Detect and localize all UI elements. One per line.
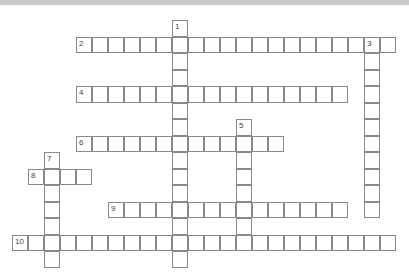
crossword-cell[interactable] — [220, 136, 236, 153]
crossword-cell[interactable] — [124, 235, 140, 252]
crossword-cell[interactable] — [252, 86, 268, 103]
crossword-cell[interactable] — [236, 218, 252, 235]
crossword-cell[interactable] — [172, 202, 188, 219]
crossword-cell[interactable] — [300, 202, 316, 219]
crossword-cell[interactable] — [172, 251, 188, 268]
crossword-cell[interactable] — [140, 136, 156, 153]
crossword-cell[interactable] — [364, 185, 380, 202]
crossword-cell[interactable] — [236, 185, 252, 202]
crossword-cell[interactable] — [124, 86, 140, 103]
crossword-cell[interactable] — [172, 37, 188, 54]
crossword-cell[interactable] — [140, 86, 156, 103]
crossword-cell[interactable] — [364, 152, 380, 169]
crossword-cell[interactable] — [204, 202, 220, 219]
crossword-cell[interactable] — [124, 37, 140, 54]
crossword-cell[interactable] — [332, 37, 348, 54]
crossword-cell[interactable] — [60, 169, 76, 186]
crossword-cell[interactable] — [204, 235, 220, 252]
crossword-cell[interactable] — [364, 119, 380, 136]
crossword-cell[interactable] — [316, 235, 332, 252]
crossword-cell[interactable] — [172, 152, 188, 169]
crossword-cell[interactable] — [236, 169, 252, 186]
crossword-cell[interactable] — [380, 235, 396, 252]
crossword-cell[interactable] — [204, 86, 220, 103]
crossword-cell[interactable] — [172, 218, 188, 235]
crossword-cell[interactable] — [172, 53, 188, 70]
crossword-cell[interactable] — [332, 86, 348, 103]
crossword-cell[interactable] — [268, 235, 284, 252]
crossword-cell[interactable] — [92, 136, 108, 153]
crossword-cell[interactable] — [268, 37, 284, 54]
crossword-cell[interactable] — [140, 37, 156, 54]
crossword-cell[interactable] — [316, 86, 332, 103]
crossword-cell[interactable] — [364, 86, 380, 103]
crossword-cell[interactable] — [332, 235, 348, 252]
crossword-cell[interactable] — [204, 37, 220, 54]
crossword-cell[interactable]: 7 — [44, 152, 60, 169]
crossword-cell[interactable] — [380, 37, 396, 54]
crossword-cell[interactable] — [172, 136, 188, 153]
crossword-cell[interactable] — [316, 202, 332, 219]
crossword-cell[interactable] — [188, 235, 204, 252]
crossword-cell[interactable] — [108, 86, 124, 103]
crossword-cell[interactable]: 3 — [364, 37, 380, 54]
crossword-cell[interactable] — [300, 86, 316, 103]
crossword-cell[interactable] — [364, 70, 380, 87]
crossword-cell[interactable] — [252, 235, 268, 252]
crossword-cell[interactable] — [204, 136, 220, 153]
crossword-cell[interactable] — [92, 235, 108, 252]
crossword-cell[interactable] — [156, 136, 172, 153]
crossword-cell[interactable] — [60, 235, 76, 252]
crossword-cell[interactable] — [44, 185, 60, 202]
crossword-cell[interactable] — [268, 86, 284, 103]
crossword-cell[interactable] — [76, 169, 92, 186]
crossword-cell[interactable] — [76, 235, 92, 252]
crossword-cell[interactable] — [348, 37, 364, 54]
crossword-cell[interactable] — [236, 37, 252, 54]
crossword-cell[interactable] — [156, 37, 172, 54]
crossword-cell[interactable] — [156, 235, 172, 252]
crossword-cell[interactable]: 2 — [76, 37, 92, 54]
crossword-cell[interactable] — [124, 136, 140, 153]
crossword-cell[interactable] — [172, 169, 188, 186]
crossword-cell[interactable] — [348, 235, 364, 252]
crossword-cell[interactable] — [188, 86, 204, 103]
crossword-cell[interactable] — [156, 202, 172, 219]
crossword-cell[interactable] — [44, 218, 60, 235]
crossword-cell[interactable] — [236, 152, 252, 169]
crossword-cell[interactable] — [364, 235, 380, 252]
crossword-cell[interactable] — [140, 235, 156, 252]
crossword-cell[interactable] — [108, 235, 124, 252]
crossword-cell[interactable] — [172, 103, 188, 120]
crossword-cell[interactable] — [44, 251, 60, 268]
crossword-cell[interactable]: 8 — [28, 169, 44, 186]
crossword-cell[interactable] — [252, 37, 268, 54]
crossword-cell[interactable] — [236, 86, 252, 103]
crossword-cell[interactable]: 6 — [76, 136, 92, 153]
crossword-cell[interactable] — [172, 70, 188, 87]
crossword-cell[interactable] — [188, 202, 204, 219]
crossword-cell[interactable] — [284, 202, 300, 219]
crossword-cell[interactable] — [332, 202, 348, 219]
crossword-cell[interactable] — [252, 202, 268, 219]
crossword-cell[interactable] — [300, 235, 316, 252]
crossword-cell[interactable] — [364, 169, 380, 186]
crossword-cell[interactable] — [188, 136, 204, 153]
crossword-cell[interactable]: 1 — [172, 20, 188, 37]
crossword-cell[interactable] — [284, 235, 300, 252]
crossword-cell[interactable] — [220, 86, 236, 103]
crossword-cell[interactable] — [364, 53, 380, 70]
crossword-cell[interactable] — [220, 202, 236, 219]
crossword-cell[interactable]: 9 — [108, 202, 124, 219]
crossword-cell[interactable] — [92, 37, 108, 54]
crossword-cell[interactable] — [108, 37, 124, 54]
crossword-cell[interactable] — [172, 119, 188, 136]
crossword-cell[interactable] — [236, 136, 252, 153]
crossword-cell[interactable] — [28, 235, 44, 252]
crossword-cell[interactable] — [300, 37, 316, 54]
crossword-cell[interactable] — [284, 86, 300, 103]
crossword-cell[interactable] — [172, 235, 188, 252]
crossword-cell[interactable]: 4 — [76, 86, 92, 103]
crossword-cell[interactable] — [364, 136, 380, 153]
crossword-cell[interactable] — [236, 202, 252, 219]
